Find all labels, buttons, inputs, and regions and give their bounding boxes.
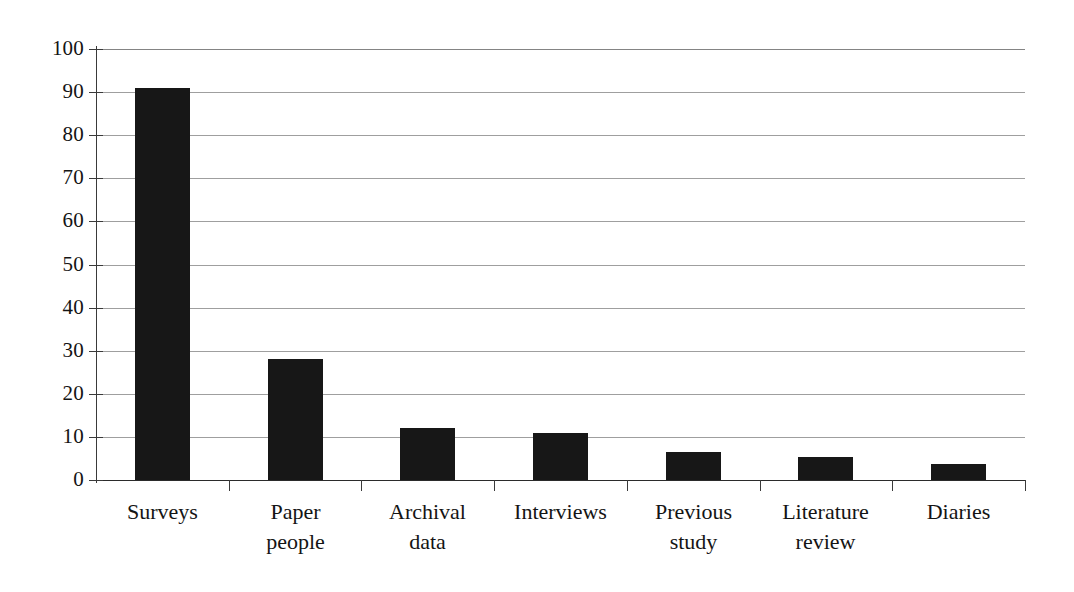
y-tick-mark — [89, 265, 103, 266]
x-axis-labels: SurveysPaperpeopleArchivaldataInterviews… — [96, 497, 1025, 587]
y-tick-mark — [89, 221, 103, 222]
gridline — [96, 265, 1025, 266]
x-axis-baseline — [96, 480, 1025, 481]
y-tick-label: 50 — [24, 254, 84, 275]
bar — [400, 428, 455, 480]
gridline — [96, 49, 1025, 50]
y-axis-labels: 1009080706050403020100 — [0, 0, 84, 592]
x-tick-label-line: Interviews — [494, 497, 627, 527]
y-tick-label: 60 — [24, 210, 84, 231]
y-tick-label: 30 — [24, 340, 84, 361]
x-tick-label: Literaturereview — [759, 497, 892, 557]
bar — [798, 457, 853, 480]
y-tick-mark — [89, 437, 103, 438]
y-tick-mark — [89, 92, 103, 93]
x-tick-label-line: data — [361, 527, 494, 557]
x-tick-label-line: study — [627, 527, 760, 557]
x-tick-mark — [892, 480, 893, 491]
x-tick-mark — [760, 480, 761, 491]
y-tick-mark — [89, 480, 103, 481]
x-tick-label-line: Paper — [229, 497, 362, 527]
x-tick-mark — [1025, 480, 1026, 491]
bar-chart-figure: 1009080706050403020100 SurveysPaperpeopl… — [0, 0, 1074, 592]
gridline — [96, 351, 1025, 352]
x-tick-mark — [229, 480, 230, 491]
x-tick-label: Diaries — [892, 497, 1025, 527]
bar — [666, 452, 721, 480]
gridline — [96, 394, 1025, 395]
gridline — [96, 178, 1025, 179]
x-tick-label-line: Literature — [759, 497, 892, 527]
x-tick-label-line: Archival — [361, 497, 494, 527]
x-tick-label-line: Surveys — [96, 497, 229, 527]
bar — [931, 464, 986, 480]
x-tick-label: Archivaldata — [361, 497, 494, 557]
gridline — [96, 221, 1025, 222]
gridline — [96, 308, 1025, 309]
bar — [135, 88, 190, 480]
x-tick-label-line: people — [229, 527, 362, 557]
x-tick-mark — [627, 480, 628, 491]
x-tick-mark — [494, 480, 495, 491]
y-tick-mark — [89, 394, 103, 395]
y-tick-label: 10 — [24, 426, 84, 447]
y-tick-mark — [89, 135, 103, 136]
bar — [268, 359, 323, 480]
y-tick-label: 90 — [24, 81, 84, 102]
x-tick-mark — [361, 480, 362, 491]
x-tick-label-line: review — [759, 527, 892, 557]
y-tick-mark — [89, 178, 103, 179]
bar — [533, 433, 588, 480]
x-tick-label-line: Previous — [627, 497, 760, 527]
y-tick-label: 70 — [24, 167, 84, 188]
x-tick-label-line: Diaries — [892, 497, 1025, 527]
gridline — [96, 135, 1025, 136]
y-tick-mark — [89, 49, 103, 50]
gridline — [96, 92, 1025, 93]
y-tick-label: 0 — [24, 469, 84, 490]
y-tick-mark — [89, 308, 103, 309]
x-tick-label: Previousstudy — [627, 497, 760, 557]
x-tick-label: Interviews — [494, 497, 627, 527]
x-tick-label: Paperpeople — [229, 497, 362, 557]
y-tick-label: 80 — [24, 124, 84, 145]
plot-area — [96, 49, 1025, 480]
y-tick-label: 20 — [24, 383, 84, 404]
x-tick-label: Surveys — [96, 497, 229, 527]
y-tick-mark — [89, 351, 103, 352]
y-tick-label: 40 — [24, 297, 84, 318]
y-tick-label: 100 — [24, 38, 84, 59]
